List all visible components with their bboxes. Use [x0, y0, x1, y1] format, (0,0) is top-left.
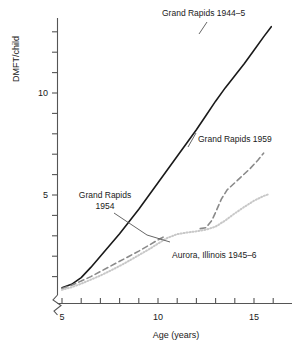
annotation-grand-rapids-1944: Grand Rapids 1944–5 — [162, 8, 245, 19]
x-tick-label-5: 5 — [59, 312, 64, 322]
y-tick-label-10: 10 — [38, 88, 48, 98]
x-axis-title: Age (years) — [153, 330, 200, 340]
x-axis-ticks — [62, 298, 273, 304]
annotation-aurora-illinois: Aurora, Illinois 1945–6 — [172, 250, 257, 261]
series-line-2 — [200, 153, 263, 228]
y-axis-ticks — [52, 32, 58, 277]
annotation-grand-rapids-1954-line2: 1954 — [96, 201, 115, 211]
annotation-grand-rapids-1954: Grand Rapids 1954 — [62, 190, 148, 211]
x-tick-label-10: 10 — [153, 312, 163, 322]
annotation-grand-rapids-1954-line1: Grand Rapids — [79, 190, 131, 200]
series-line-0 — [62, 27, 271, 288]
y-axis-title: DMFT/child — [11, 36, 21, 82]
annotation-grand-rapids-1959: Grand Rapids 1959 — [198, 134, 272, 145]
x-tick-label-15: 15 — [249, 312, 259, 322]
chart-figure: 10 5 5 10 15 Age (years) DMFT/child Gran… — [0, 0, 301, 343]
leader-line-1944 — [199, 22, 207, 34]
chart-plot-area: 10 5 5 10 15 Age (years) — [0, 0, 301, 343]
y-tick-label-5: 5 — [43, 190, 48, 200]
